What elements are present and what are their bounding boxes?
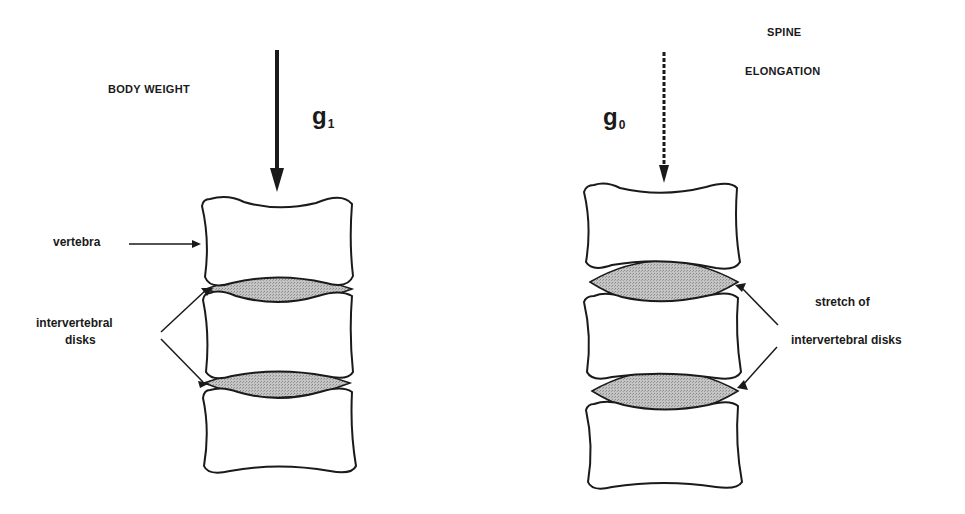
spine-diagram bbox=[0, 0, 965, 514]
gravity-symbol: g bbox=[312, 102, 327, 129]
gravity-g0-label: g0 bbox=[603, 103, 625, 131]
vertebra-right-middle bbox=[584, 293, 741, 378]
spine-title-line1: SPINE bbox=[767, 26, 802, 38]
vertebra-pointer-arrow-icon bbox=[129, 240, 201, 248]
vertebra-left-middle bbox=[203, 292, 353, 379]
body-weight-label: BODY WEIGHT bbox=[108, 83, 190, 95]
gravity-g1-label: g1 bbox=[312, 102, 334, 130]
vertebra-right-top bbox=[584, 184, 740, 269]
vertebra-left-top bbox=[202, 197, 353, 285]
body-weight-arrow-icon bbox=[270, 50, 284, 192]
vertebra-right-bottom bbox=[586, 402, 742, 489]
reduced-gravity-dashed-arrow-icon bbox=[659, 52, 669, 183]
spine-title-line2: ELONGATION bbox=[745, 65, 821, 77]
vertebra-label: vertebra bbox=[53, 235, 100, 249]
intervertebral-label-line1: intervertebral bbox=[36, 316, 113, 330]
gravity-subscript: 1 bbox=[328, 117, 335, 131]
stretch-pointer-arrows-icon bbox=[735, 283, 778, 390]
stretch-label-line2: intervertebral disks bbox=[791, 333, 902, 347]
gravity-symbol: g bbox=[603, 103, 618, 130]
vertebra-left-bottom bbox=[203, 388, 356, 472]
stretch-label-line1: stretch of bbox=[815, 295, 870, 309]
gravity-subscript: 0 bbox=[619, 118, 626, 132]
intervertebral-label-line2: disks bbox=[65, 333, 96, 347]
